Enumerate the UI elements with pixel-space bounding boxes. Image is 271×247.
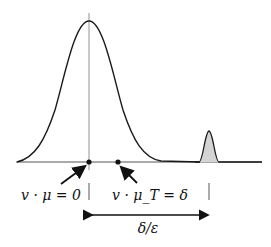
target-arrow: [122, 168, 137, 183]
distance-label: δ/ε: [138, 220, 159, 236]
target-mean-point: [115, 159, 120, 164]
origin-label: v · μ = 0: [21, 187, 81, 203]
origin-arrow: [61, 167, 84, 184]
diagram-canvas: v · μ = 0 v · μ_T = δ δ/ε: [0, 0, 271, 247]
target-label: v · μ_T = δ: [112, 187, 188, 204]
main-gaussian-curve: [17, 21, 200, 162]
origin-point: [86, 159, 91, 164]
